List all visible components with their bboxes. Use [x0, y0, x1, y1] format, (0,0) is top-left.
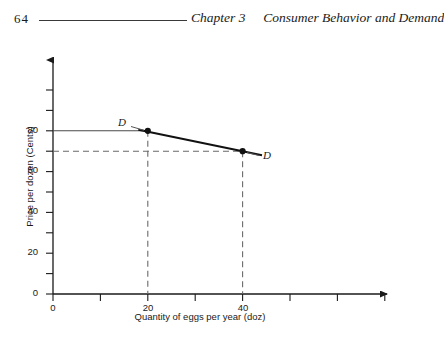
- y-axis-ticks: [46, 90, 53, 294]
- plot-area: [0, 30, 440, 344]
- demand-curve-figure: 0 20 40 60 80 0 20 40 Price per dozen (C…: [0, 30, 440, 344]
- data-point-20-80: [145, 128, 151, 134]
- header-divider-rule: [39, 20, 187, 21]
- y-axis-title: Price per dozen (Cents): [24, 97, 35, 257]
- chapter-number: Chapter 3: [191, 10, 245, 25]
- curve-label-d-left: D: [118, 116, 126, 128]
- x-tick-label-0: 0: [41, 302, 65, 313]
- page-running-head: 64 Chapter 3 Consumer Behavior and Deman…: [0, 0, 440, 30]
- data-point-40-70: [240, 148, 246, 154]
- x-axis-title: Quantity of eggs per year (doz): [100, 311, 300, 322]
- leader-line-d-left: [131, 127, 144, 131]
- curve-label-d-right: D: [263, 149, 271, 161]
- chapter-heading: Chapter 3 Consumer Behavior and Demand: [191, 10, 444, 26]
- chapter-title: Consumer Behavior and Demand: [263, 10, 444, 25]
- x-axis-ticks: [53, 294, 385, 301]
- y-tick-label-0: 0: [16, 287, 38, 298]
- page-number: 64: [14, 11, 29, 27]
